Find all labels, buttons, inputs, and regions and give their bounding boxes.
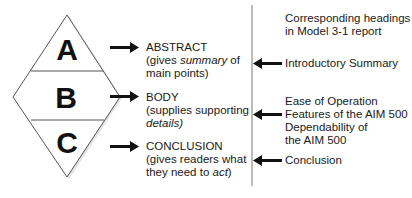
label-conclusion: CONCLUSION (gives readers what they need… bbox=[146, 140, 246, 179]
body-heading: BODY bbox=[146, 91, 249, 104]
heading-body-group: Ease of Operation Features of the AIM 50… bbox=[285, 95, 408, 147]
letter-a: A bbox=[56, 33, 78, 66]
heading-line: Conclusion bbox=[285, 154, 342, 167]
arrow-left-introductory-summary bbox=[253, 58, 282, 69]
arrow-left-body-headings bbox=[253, 109, 282, 120]
heading-line: Dependability of bbox=[285, 121, 408, 134]
abstract-heading: ABSTRACT bbox=[146, 41, 240, 54]
abstract-desc-line2: (gives summary of bbox=[146, 54, 240, 67]
letter-c: C bbox=[56, 126, 78, 159]
heading-introductory-summary: Introductory Summary bbox=[285, 57, 398, 70]
right-column-title: Corresponding headings in Model 3-1 repo… bbox=[285, 12, 410, 38]
body-desc-line2: (supplies supporting bbox=[146, 104, 249, 117]
conclusion-heading: CONCLUSION bbox=[146, 140, 246, 153]
abstract-desc-line3: main points) bbox=[146, 67, 240, 80]
heading-line: Introductory Summary bbox=[285, 57, 398, 70]
body-desc-line3: details) bbox=[146, 117, 249, 130]
letter-b: B bbox=[55, 81, 77, 114]
title-line-1: Corresponding headings bbox=[285, 12, 410, 25]
arrow-right-conclusion bbox=[110, 141, 139, 152]
label-body: BODY (supplies supporting details) bbox=[146, 91, 249, 130]
heading-line: the AIM 500 bbox=[285, 134, 408, 147]
title-line-2: in Model 3-1 report bbox=[285, 25, 410, 38]
conclusion-desc-line2: (gives readers what bbox=[146, 153, 246, 166]
label-abstract: ABSTRACT (gives summary of main points) bbox=[146, 41, 240, 80]
arrow-right-abstract bbox=[110, 42, 139, 53]
arrow-left-conclusion bbox=[253, 155, 282, 166]
heading-line: Features of the AIM 500 bbox=[285, 108, 408, 121]
heading-conclusion: Conclusion bbox=[285, 154, 342, 167]
heading-line: Ease of Operation bbox=[285, 95, 408, 108]
conclusion-desc-line3: they need to act) bbox=[146, 166, 246, 179]
